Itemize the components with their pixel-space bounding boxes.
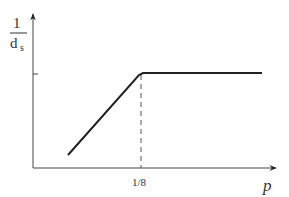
y-label-numerator: 1 <box>13 15 21 31</box>
x-axis-label: p <box>262 176 272 195</box>
x-tick-label: 1/8 <box>132 176 147 188</box>
plot: 1 d s 1/8 p <box>0 0 289 197</box>
y-label-denominator: d <box>10 35 18 51</box>
y-label-subscript: s <box>20 42 24 53</box>
data-line <box>68 73 262 155</box>
